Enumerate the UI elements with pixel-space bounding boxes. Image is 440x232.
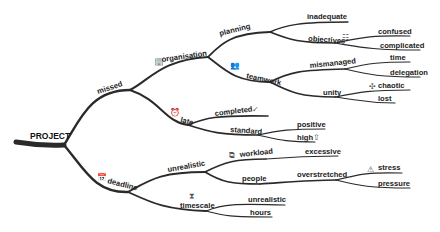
mind-map: PROJECT missed 🏢 organisation planning i… xyxy=(0,0,440,232)
label-pressure: pressure xyxy=(378,179,410,188)
label-inadequate: inadequate xyxy=(307,12,347,21)
calendar-icon: 📅 xyxy=(97,172,107,182)
copies-icon: ⧉ xyxy=(229,151,235,160)
label-confused: confused xyxy=(378,27,412,36)
branch-chaotic xyxy=(335,90,410,97)
label-hours: hours xyxy=(250,208,271,217)
warning-icon: ⚠ xyxy=(367,165,374,174)
label-chaotic: chaotic xyxy=(378,81,405,90)
root-label: PROJECT xyxy=(30,131,71,141)
check-icon: ✓ xyxy=(252,105,259,114)
alarm-clock-icon: ⏰ xyxy=(170,107,180,117)
hourglass-icon: ⧗ xyxy=(189,192,195,201)
branch-workload xyxy=(205,159,266,172)
branch-unrealistic xyxy=(128,172,205,192)
label-time: time xyxy=(390,53,406,62)
label-teamwork: teamwork xyxy=(246,71,283,87)
label-organisation: organisation xyxy=(161,49,208,64)
branch-planning xyxy=(208,32,270,57)
branch-overstretched xyxy=(260,180,336,184)
label-people: people xyxy=(242,174,266,183)
label-positive: positive xyxy=(297,120,326,129)
branch-missed xyxy=(64,90,130,145)
label-workload: workload xyxy=(238,147,273,160)
branch-excessive xyxy=(266,156,338,159)
team-icon: 👥 xyxy=(230,61,240,70)
label-lost: lost xyxy=(378,94,392,103)
label-timescale: timescale xyxy=(180,201,215,210)
branch-inadequate xyxy=(270,22,348,32)
label-complicated: complicated xyxy=(380,41,425,50)
root-branch xyxy=(16,142,64,145)
checklist-icon: ☷ xyxy=(342,33,349,42)
burst-icon: ✣ xyxy=(369,82,376,91)
label-late: late xyxy=(180,115,195,127)
label-high: high xyxy=(297,133,313,142)
label-stress: stress xyxy=(378,163,400,172)
label-excessive: excessive xyxy=(305,147,341,156)
arrow-up-icon: ⇧ xyxy=(313,133,320,142)
label-unity: unity xyxy=(323,88,342,97)
label-objectives: objectives xyxy=(308,34,346,46)
branch-unrealistic2 xyxy=(206,204,285,211)
label-unrealistic-hours: unrealistic xyxy=(248,195,286,204)
label-overstretched: overstretched xyxy=(297,170,348,179)
branch-completed xyxy=(188,116,268,125)
label-planning: planning xyxy=(218,21,251,37)
label-delegation: delegation xyxy=(390,68,428,77)
